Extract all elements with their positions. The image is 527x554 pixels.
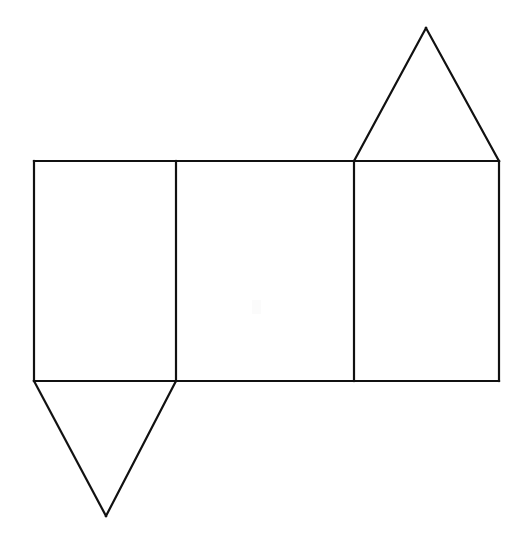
rectangle-face-left: [34, 161, 176, 381]
prism-net-diagram: [0, 0, 527, 554]
rectangle-face-right: [354, 161, 499, 381]
rectangle-face-middle: [176, 161, 354, 381]
figure-canvas: [0, 0, 527, 554]
